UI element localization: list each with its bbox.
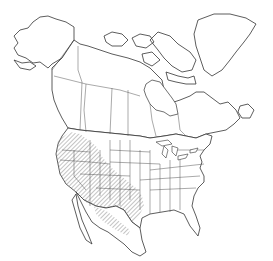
newfoundland [238, 104, 254, 118]
greenland [194, 14, 256, 76]
range-map [0, 0, 273, 261]
north-america-map [0, 0, 273, 261]
